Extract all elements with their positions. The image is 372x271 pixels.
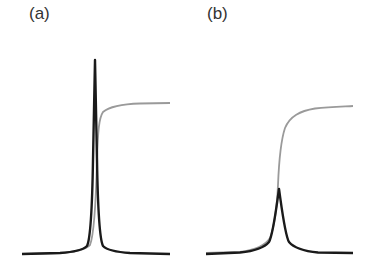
panel-b-peak-curve xyxy=(206,189,353,254)
panel-a-plot xyxy=(22,60,170,254)
panel-b-sigmoid-curve xyxy=(206,106,353,253)
panel-b-plot xyxy=(206,106,353,254)
figure-canvas xyxy=(0,0,372,271)
panel-a-peak-curve xyxy=(22,60,170,254)
